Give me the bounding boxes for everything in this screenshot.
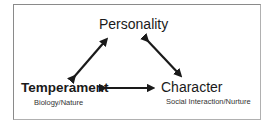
arrow-temperament-personality [74, 40, 106, 77]
arrow-personality-character [147, 40, 180, 75]
arrows [0, 0, 276, 124]
